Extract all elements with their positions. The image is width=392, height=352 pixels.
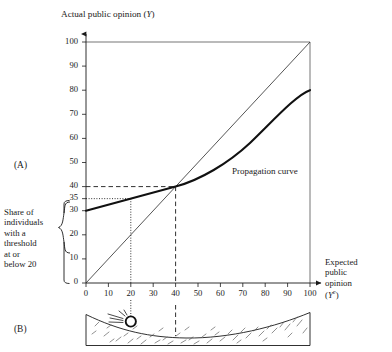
propagation-curve [86, 90, 310, 211]
y-tick-label-10: 10 [56, 253, 78, 263]
x-tick-label-0: 0 [76, 289, 96, 299]
figure-svg [0, 0, 392, 352]
basin-ball-icon [126, 316, 136, 326]
x-tick-label-90: 90 [278, 289, 298, 299]
x-tick-label-40: 40 [166, 289, 186, 299]
y-tick-label-50: 50 [56, 157, 78, 167]
x-tick-label-50: 50 [188, 289, 208, 299]
y-tick-label-70: 70 [56, 109, 78, 119]
x-tick-label-10: 10 [98, 289, 118, 299]
x-tick-label-80: 80 [255, 289, 275, 299]
x-tick-label-30: 30 [143, 289, 163, 299]
y-tick-label-60: 60 [56, 133, 78, 143]
y-tick-label-80: 80 [56, 85, 78, 95]
basin-surface-curve [86, 313, 310, 339]
x-tick-label-60: 60 [210, 289, 230, 299]
x-tick-label-70: 70 [233, 289, 253, 299]
y-tick-label-30: 30 [56, 205, 78, 215]
figure-container: Actual public opinion (Y) (A) (B) Share … [0, 0, 392, 352]
threshold-guides [86, 199, 131, 283]
x-tick-label-100: 100 [300, 289, 320, 299]
y-tick-label-90: 90 [56, 61, 78, 71]
y-tick-label-0: 0 [56, 277, 78, 287]
y-axis-ticks [82, 42, 86, 283]
forty-five-degree-line [86, 42, 310, 283]
y-tick-label-100: 100 [56, 37, 78, 47]
y-tick-label-40: 40 [56, 181, 78, 191]
y-tick-label-20: 20 [56, 229, 78, 239]
panel-b-basin [86, 300, 310, 346]
x-tick-label-20: 20 [121, 289, 141, 299]
y-tick-label-35: 35 [56, 193, 78, 203]
x-axis-ticks [86, 283, 310, 287]
